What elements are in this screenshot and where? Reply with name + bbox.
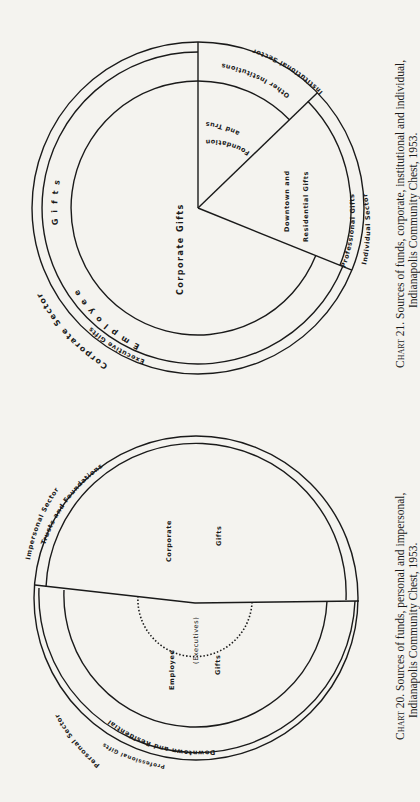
c20-caption-prefix: Chart 20.: [394, 694, 406, 740]
chart-20: Impersonal Sector Trusts and Foundations…: [24, 436, 420, 770]
c20-personal-sector-label: Personal Sector: [53, 712, 102, 770]
c21-executive-ring: [42, 52, 343, 364]
c21-individual-sector-label: Individual Sector: [360, 192, 372, 265]
c20-caption: Chart 20. Sources of funds, personal and…: [394, 492, 420, 740]
c21-radial-lower-right: [198, 208, 352, 270]
c21-caption: Chart 21. Sources of funds, corporate, i…: [394, 60, 420, 368]
svg-text:Chart 21. Sources of funds, co: Chart 21. Sources of funds, corporate, i…: [394, 60, 407, 368]
c21-residential-gifts-label: Residential Gifts: [302, 171, 310, 242]
c21-institutional-sector-label: Institutional Sector: [251, 47, 325, 96]
c20-downtown-residential-label: Downtown and Residential: [106, 718, 216, 757]
c20-professional-ring: [39, 588, 355, 753]
c21-professional-gifts-label: Professional Gifts: [339, 193, 357, 269]
c21-corporate-gifts-label: Corporate Gifts: [176, 203, 185, 295]
c20-caption-line2: Indianapolis Community Chest, 1953.: [407, 543, 420, 718]
svg-text:Chart 20. Sources of funds, pe: Chart 20. Sources of funds, personal and…: [394, 492, 407, 740]
c20-trusts-ring: [46, 443, 346, 600]
chart-21: Corporate Sector Executive Gifts E m p l…: [0, 0, 420, 374]
c20-divider-line: [35, 585, 359, 603]
c20-gifts-upper-label: Gifts: [215, 526, 223, 546]
c21-foundations-label: Foundations: [0, 0, 251, 157]
c21-professional-ring: [308, 101, 351, 265]
c21-downtown-and-label: Downtown and: [283, 170, 291, 232]
c21-caption-line1: Sources of funds, corporate, institution…: [394, 60, 407, 322]
c21-gifts-label: G i f t s: [50, 178, 62, 226]
c20-caption-line1: Sources of funds, personal and impersona…: [394, 492, 407, 693]
c21-and-trusts-label: and Trusts: [0, 0, 241, 137]
c20-corporate-label: Corporate: [165, 520, 173, 562]
c20-employee-label: Employee: [168, 650, 176, 690]
c20-executives-label: (Executives): [192, 617, 200, 664]
c21-inner-ring: [71, 81, 316, 335]
c21-caption-line2: Indianapolis Community Chest, 1953.: [407, 133, 420, 308]
page-figure: Corporate Sector Executive Gifts E m p l…: [0, 0, 420, 802]
c21-caption-prefix: Chart 21.: [394, 322, 406, 368]
c21-radial-upper-right: [198, 93, 317, 208]
c20-gifts-lower-label: Gifts: [214, 655, 222, 675]
c21-other-institutions-label: Other Institutions: [220, 62, 291, 100]
